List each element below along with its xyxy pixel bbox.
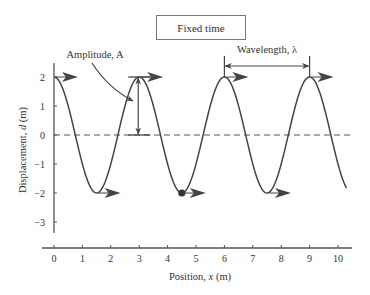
- amplitude-label: Amplitude, A: [66, 49, 124, 60]
- marked-point: [178, 189, 185, 196]
- x-tick-label: 0: [52, 253, 57, 264]
- y-tick-label: −1: [34, 159, 45, 170]
- y-tick-label: 0: [40, 130, 45, 141]
- x-tick-label: 7: [250, 253, 255, 264]
- x-tick-label: 2: [108, 253, 113, 264]
- x-tick-label: 4: [165, 253, 170, 264]
- amplitude-leader-arrow: [92, 63, 133, 101]
- x-tick-label: 9: [307, 253, 312, 264]
- x-tick-label: 5: [194, 253, 199, 264]
- axes: 210−1−2−3012345678910Position, x (m)Disp…: [17, 63, 352, 283]
- x-tick-label: 3: [137, 253, 142, 264]
- x-axis-label: Position, x (m): [169, 271, 232, 283]
- wave-chart: 210−1−2−3012345678910Position, x (m)Disp…: [0, 0, 370, 295]
- wave-curve: [54, 72, 352, 198]
- y-tick-label: 1: [40, 101, 45, 112]
- y-tick-label: −2: [34, 188, 45, 199]
- y-tick-label: −3: [34, 217, 45, 228]
- x-tick-label: 6: [222, 253, 227, 264]
- wavelength-label: Wavelength, λ: [237, 44, 298, 55]
- y-axis-label: Displacement, d (m): [17, 106, 29, 193]
- y-tick-label: 2: [40, 72, 45, 83]
- x-tick-label: 8: [279, 253, 284, 264]
- x-tick-label: 1: [80, 253, 85, 264]
- annotations: Amplitude, AWavelength, λ: [66, 44, 309, 135]
- x-tick-label: 10: [333, 253, 343, 264]
